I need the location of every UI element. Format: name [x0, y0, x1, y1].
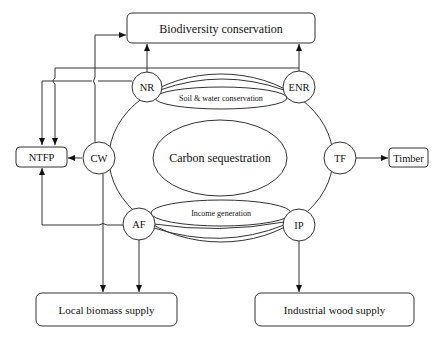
- local-biomass-supply-box: Local biomass supply: [36, 293, 177, 326]
- node-tf: TF: [324, 142, 356, 174]
- af-label: AF: [132, 219, 146, 230]
- biodiversity-conservation-box: Biodiversity conservation: [127, 13, 315, 43]
- node-cw: CW: [83, 142, 115, 174]
- node-enr: ENR: [283, 71, 315, 103]
- timber-label: Timber: [393, 153, 424, 164]
- income-generation-label: Income generation: [191, 209, 251, 218]
- ntfp-box: NTFP: [16, 147, 67, 167]
- af-ip-lower-curve: [154, 225, 284, 238]
- edge-cw-biodiversity: [94, 35, 127, 142]
- ntfp-label: NTFP: [29, 152, 55, 163]
- industrial-wood-label: Industrial wood supply: [284, 304, 386, 316]
- cw-label: CW: [91, 153, 108, 164]
- edge-af-ntfp: [42, 168, 123, 225]
- local-biomass-label: Local biomass supply: [59, 304, 155, 316]
- industrial-wood-supply-box: Industrial wood supply: [255, 293, 414, 326]
- enr-label: ENR: [289, 82, 310, 93]
- node-af: AF: [123, 208, 155, 240]
- nr-label: NR: [140, 82, 155, 93]
- carbon-sequestration-label: Carbon sequestration: [169, 151, 271, 165]
- soil-water-label: Soil & water conservation: [179, 94, 263, 103]
- biodiversity-label: Biodiversity conservation: [159, 22, 283, 36]
- timber-box: Timber: [389, 148, 428, 167]
- diagram-canvas: Biodiversity conservation NTFP Timber Lo…: [0, 0, 439, 338]
- tf-label: TF: [334, 153, 346, 164]
- node-ip: IP: [283, 209, 315, 241]
- ip-label: IP: [294, 220, 303, 231]
- node-nr: NR: [132, 72, 162, 102]
